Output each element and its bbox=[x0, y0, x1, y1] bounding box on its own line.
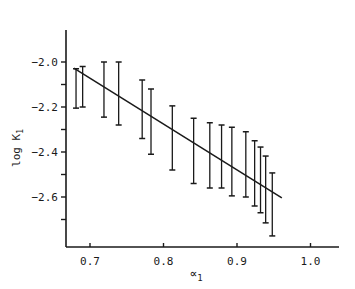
error-bar bbox=[191, 118, 197, 183]
error-bar bbox=[219, 125, 225, 188]
fit-line bbox=[74, 68, 282, 198]
axis-ticks: −2.0−2.2−2.4−2.60.70.80.91.0 bbox=[32, 56, 321, 268]
error-bar bbox=[258, 147, 264, 213]
error-bar bbox=[169, 106, 175, 170]
error-bar bbox=[116, 62, 122, 125]
error-bar bbox=[229, 127, 235, 196]
y-tick-label: −2.4 bbox=[32, 146, 59, 159]
x-tick-label: 1.0 bbox=[301, 255, 321, 268]
regression-line bbox=[74, 68, 282, 198]
error-bar-chart: −2.0−2.2−2.4−2.60.70.80.91.0 log K1 ∝1 bbox=[0, 0, 355, 289]
y-tick-label: −2.6 bbox=[32, 191, 59, 204]
x-tick-label: 0.9 bbox=[227, 255, 247, 268]
error-bars bbox=[73, 62, 275, 236]
x-axis-label: ∝1 bbox=[189, 266, 202, 283]
error-bar bbox=[101, 62, 107, 117]
y-tick-label: −2.2 bbox=[32, 101, 59, 114]
x-tick-label: 0.8 bbox=[154, 255, 174, 268]
y-axis-label: log K1 bbox=[10, 129, 25, 167]
error-bar bbox=[252, 141, 258, 206]
error-bar bbox=[73, 69, 79, 108]
error-bar bbox=[243, 132, 249, 197]
error-bar bbox=[207, 123, 213, 188]
y-tick-label: −2.0 bbox=[32, 56, 59, 69]
error-bar bbox=[148, 89, 154, 154]
x-tick-label: 0.7 bbox=[80, 255, 100, 268]
error-bar bbox=[269, 173, 275, 236]
